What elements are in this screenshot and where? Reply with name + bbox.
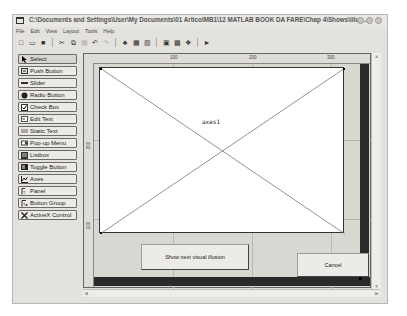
paste-icon[interactable]: ▤ xyxy=(80,39,88,47)
run-icon[interactable]: ► xyxy=(203,39,211,47)
slider-icon xyxy=(21,80,28,86)
radio-button-icon xyxy=(21,92,28,98)
palette-slider[interactable]: Slider xyxy=(18,78,77,88)
palette-edit-text[interactable]: Edit Text xyxy=(18,114,77,124)
guide-app-icon xyxy=(16,17,24,24)
vertical-ruler: 200 100 xyxy=(84,63,94,287)
axes1[interactable]: axes1 xyxy=(99,67,344,233)
palette-axes[interactable]: Axes xyxy=(18,174,77,184)
menu-edit[interactable]: Edit xyxy=(31,27,40,35)
horizontal-scrollbar[interactable]: ◀ ▶ xyxy=(83,289,380,297)
menu-file[interactable]: File xyxy=(16,27,25,35)
listbox-icon xyxy=(21,152,28,158)
open-icon[interactable]: ▭ xyxy=(28,39,36,47)
cancel-button[interactable]: Cancel xyxy=(297,253,369,277)
scroll-right-icon[interactable]: ▶ xyxy=(375,290,379,296)
copy-icon[interactable]: ⧉ xyxy=(69,39,77,47)
toolbar: □ ▭ ■ ✂ ⧉ ▤ ↶ ↷ ♣ ▦ ▥ ▣ ▩ ❖ ► xyxy=(13,36,387,49)
close-icon[interactable] xyxy=(375,17,382,24)
minimize-icon[interactable] xyxy=(357,17,364,24)
maximize-icon[interactable] xyxy=(366,17,373,24)
ruler-tick: 100 xyxy=(170,55,178,60)
redo-icon[interactable]: ↷ xyxy=(102,39,110,47)
undo-icon[interactable]: ↶ xyxy=(91,39,99,47)
property-inspector-icon[interactable]: ▩ xyxy=(173,39,181,47)
popup-menu-icon xyxy=(21,140,28,146)
axes-tag-label: axes1 xyxy=(202,118,220,125)
ruler-tick: 200 xyxy=(86,142,91,150)
figure-resize-handle[interactable] xyxy=(359,277,362,280)
static-text-icon xyxy=(21,128,28,134)
toolbar-separator xyxy=(115,38,116,47)
ruler-tick: 200 xyxy=(249,55,257,60)
palette-check-box[interactable]: Check Box xyxy=(18,102,77,112)
menu-bar: File Edit View Layout Tools Help xyxy=(13,27,387,35)
scroll-left-icon[interactable]: ◀ xyxy=(84,290,88,296)
palette-activex-control[interactable]: ActiveX Control xyxy=(18,210,77,220)
figure-border-right[interactable] xyxy=(360,64,369,280)
menu-tools[interactable]: Tools xyxy=(85,27,97,35)
menu-editor-icon[interactable]: ▦ xyxy=(132,39,140,47)
scroll-up-icon[interactable]: ▲ xyxy=(374,53,379,59)
edit-text-icon xyxy=(21,116,28,122)
object-browser-icon[interactable]: ❖ xyxy=(184,39,192,47)
menu-view[interactable]: View xyxy=(46,27,57,35)
new-icon[interactable]: □ xyxy=(17,39,25,47)
palette-toggle-button[interactable]: Toggle Button xyxy=(18,162,77,172)
title-bar: C:\Documents and Settings\User\My Docume… xyxy=(13,15,387,27)
toolbar-separator xyxy=(197,38,198,47)
button-group-icon: T xyxy=(21,200,28,206)
window-title: C:\Documents and Settings\User\My Docume… xyxy=(29,16,368,23)
cut-icon[interactable]: ✂ xyxy=(58,39,66,47)
align-objects-icon[interactable]: ♣ xyxy=(121,39,129,47)
vertical-scrollbar[interactable]: ▲ ▼ xyxy=(371,53,381,289)
horizontal-ruler: 100 200 300 xyxy=(84,54,370,64)
palette-push-button[interactable]: Push Button xyxy=(18,66,77,76)
m-file-editor-icon[interactable]: ▣ xyxy=(162,39,170,47)
menu-layout[interactable]: Layout xyxy=(63,27,79,35)
svg-text:T: T xyxy=(23,202,26,207)
show-next-illusion-button[interactable]: Show next visual illusion xyxy=(141,244,249,270)
palette-panel[interactable]: T Panel xyxy=(18,186,77,196)
window-controls xyxy=(357,17,382,24)
axes-icon xyxy=(21,176,28,182)
tab-order-editor-icon[interactable]: ▥ xyxy=(143,39,151,47)
palette-listbox[interactable]: Listbox xyxy=(18,150,77,160)
palette-radio-button[interactable]: Radio Button xyxy=(18,90,77,100)
ruler-tick: 100 xyxy=(86,222,91,230)
toolbar-separator xyxy=(156,38,157,47)
panel-icon: T xyxy=(21,188,28,194)
check-box-icon xyxy=(21,104,28,110)
toggle-button-icon xyxy=(21,164,28,170)
axes-placeholder-cross xyxy=(100,68,345,234)
toolbar-separator xyxy=(52,38,53,47)
menu-help[interactable]: Help xyxy=(103,27,114,35)
activex-icon xyxy=(21,212,28,218)
arrow-icon xyxy=(21,56,28,62)
component-palette: Select Push Button Slider Radio Button C… xyxy=(18,54,78,304)
svg-text:T: T xyxy=(23,190,26,195)
ruler-tick: 300 xyxy=(327,55,335,60)
figure-border-bottom[interactable] xyxy=(94,277,370,286)
palette-button-group[interactable]: T Button Group xyxy=(18,198,77,208)
palette-static-text[interactable]: Static Text xyxy=(18,126,77,136)
save-icon[interactable]: ■ xyxy=(39,39,47,47)
push-button-icon xyxy=(21,68,28,74)
palette-popup-menu[interactable]: Pop-up Menu xyxy=(18,138,77,148)
palette-select[interactable]: Select xyxy=(18,54,77,64)
